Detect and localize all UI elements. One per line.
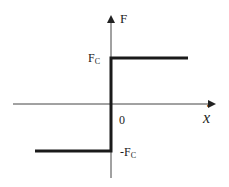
origin-label: 0 bbox=[119, 113, 125, 127]
x-axis-dot: · bbox=[206, 99, 211, 114]
neg-fc-label: -FC bbox=[120, 145, 136, 160]
friction-diagram: F FC 0 x · -FC bbox=[0, 0, 229, 187]
y-axis-label: F bbox=[120, 11, 127, 26]
fc-label: FC bbox=[88, 51, 100, 66]
